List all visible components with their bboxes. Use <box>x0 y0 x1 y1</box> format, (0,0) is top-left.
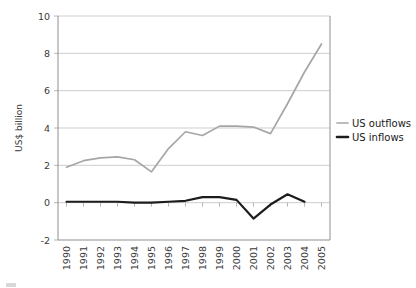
x-axis-tick-labels: 1990199119921993199419951996199719981999… <box>61 246 327 270</box>
y-tick-label: 2 <box>44 160 50 171</box>
series-line-us-outflows <box>67 44 322 172</box>
x-tick-label: 1996 <box>163 246 174 270</box>
y-tick-label: 4 <box>44 123 50 134</box>
x-tick-label: 2004 <box>299 246 310 270</box>
legend-label: US outflows <box>352 118 411 129</box>
x-tick-label: 1994 <box>129 246 140 270</box>
y-tick-label: 6 <box>44 85 50 96</box>
y-axis-ticks: -20246810 <box>38 11 58 246</box>
x-tick-label: 1998 <box>197 246 208 270</box>
chart-legend: US outflowsUS inflows <box>337 118 411 143</box>
x-axis-ticks <box>67 203 322 207</box>
y-tick-label: 8 <box>44 48 50 59</box>
x-tick-label: 2005 <box>316 246 327 270</box>
x-tick-label: 2002 <box>265 246 276 270</box>
y-tick-label: 10 <box>38 11 50 22</box>
gridlines <box>58 16 330 203</box>
series-layer <box>67 44 322 219</box>
x-tick-label: 1997 <box>180 246 191 270</box>
x-tick-label: 1992 <box>95 246 106 270</box>
legend-label: US inflows <box>352 132 404 143</box>
y-axis-title: US$ billion <box>14 104 24 152</box>
x-tick-label: 2003 <box>282 246 293 270</box>
x-tick-label: 1991 <box>78 246 89 270</box>
x-tick-label: 2001 <box>248 246 259 270</box>
x-tick-label: 2000 <box>231 246 242 270</box>
footer-decoration <box>6 283 16 287</box>
x-tick-label: 1990 <box>61 246 72 270</box>
x-tick-label: 1999 <box>214 246 225 270</box>
x-tick-label: 1995 <box>146 246 157 270</box>
y-tick-label: -2 <box>41 235 50 246</box>
line-chart: US$ billion -20246810 199019911992199319… <box>0 0 416 288</box>
y-tick-label: 0 <box>44 197 50 208</box>
x-tick-label: 1993 <box>112 246 123 270</box>
